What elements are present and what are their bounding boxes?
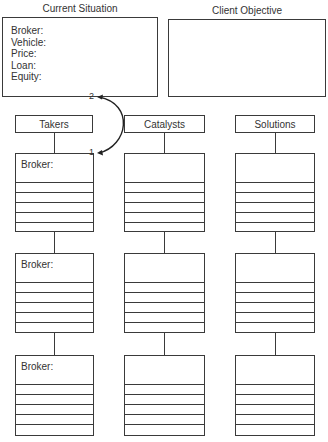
- field-loan: Loan:: [11, 60, 46, 72]
- current-situation-title: Current Situation: [2, 3, 158, 14]
- arrow-label-1: 1: [89, 147, 94, 157]
- column-header-solutions: Solutions: [235, 115, 315, 133]
- field-vehicle: Vehicle:: [11, 37, 46, 49]
- takers-box-2: Broker:: [15, 253, 94, 333]
- catalysts-box-2: [124, 253, 205, 333]
- connector-line: [54, 333, 55, 355]
- client-objective-title: Client Objective: [168, 5, 326, 16]
- connector-line: [54, 232, 55, 253]
- takers-box-3: Broker:: [15, 355, 94, 436]
- catalysts-box-3: [124, 355, 205, 436]
- client-objective-box: [168, 19, 326, 97]
- field-equity: Equity:: [11, 71, 46, 83]
- connector-line: [164, 232, 165, 253]
- catalysts-box-1: [124, 153, 205, 232]
- connector-line: [164, 333, 165, 355]
- current-situation-fields: Broker: Vehicle: Price: Loan: Equity:: [11, 25, 46, 83]
- field-price: Price:: [11, 48, 46, 60]
- connector-line: [275, 232, 276, 253]
- column-header-takers: Takers: [15, 115, 93, 133]
- broker-label: Broker:: [21, 259, 53, 270]
- connector-line: [164, 133, 165, 153]
- broker-label: Broker:: [21, 361, 53, 372]
- field-broker: Broker:: [11, 25, 46, 37]
- solutions-box-3: [235, 355, 315, 436]
- connector-line: [275, 333, 276, 355]
- current-situation-box: Broker: Vehicle: Price: Loan: Equity:: [2, 17, 158, 97]
- broker-label: Broker:: [21, 159, 53, 170]
- connector-line: [275, 133, 276, 153]
- connector-line: [54, 133, 55, 153]
- takers-box-1: Broker:: [15, 153, 94, 232]
- solutions-box-1: [235, 153, 315, 232]
- solutions-box-2: [235, 253, 315, 333]
- arrow-label-2: 2: [89, 91, 94, 101]
- column-header-catalysts: Catalysts: [124, 115, 205, 133]
